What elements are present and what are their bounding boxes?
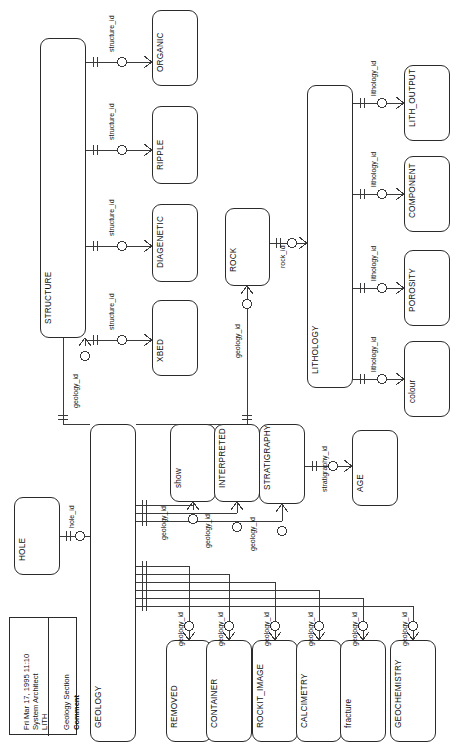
entity-lith-output[interactable]: LITH_OUTPUT xyxy=(404,65,450,141)
entity-label: ROCKIT_IMAGE xyxy=(256,664,265,728)
entity-label: COMPONENT xyxy=(408,163,417,218)
entity-label: POROSITY xyxy=(408,268,417,312)
entity-label: LITH_OUTPUT xyxy=(408,69,417,127)
title-block-date: Fri Mar 17, 1995 11:10 xyxy=(22,654,31,730)
entity-geology[interactable]: GEOLOGY xyxy=(90,424,136,742)
entity-label: INTERPRETED xyxy=(218,428,227,488)
rel-label-lithology-lith-output: lithology_id xyxy=(370,61,377,96)
entity-label: RIPPLE xyxy=(156,140,165,170)
entity-label: GEOCHEMISTRY xyxy=(394,659,403,728)
entity-calcimetry[interactable]: CALCIMETRY xyxy=(296,640,342,742)
title-block-comment-label: Comment xyxy=(72,695,81,730)
rel-label-geology-geochemistry: geology_id xyxy=(401,612,408,646)
entity-rockit-image[interactable]: ROCKIT_IMAGE xyxy=(252,640,298,742)
entity-geochemistry[interactable]: GEOCHEMISTRY xyxy=(390,640,436,742)
entity-stratigraphy[interactable]: STRATIGRAPHY xyxy=(259,424,305,504)
rel-label-stratigraphy-age: stratigraphy_id xyxy=(321,446,328,492)
entity-label: ORGANIC xyxy=(156,32,165,72)
rel-label-structure-diagenetic: structure_id xyxy=(108,199,115,236)
title-block-comment-value: Geology Section xyxy=(62,674,71,730)
entity-label: GEOLOGY xyxy=(94,686,103,728)
entity-hole[interactable]: HOLE xyxy=(14,497,60,575)
entity-lithology[interactable]: LITHOLOGY xyxy=(307,85,353,388)
rel-label-geology-show: geology_id xyxy=(160,506,167,540)
entity-label: show xyxy=(174,468,183,488)
entity-show[interactable]: show xyxy=(170,424,216,502)
title-block-tool: System Architect xyxy=(31,673,40,730)
rel-label-rock-lithology: rock_id xyxy=(279,245,286,268)
entity-colour[interactable]: colour xyxy=(404,341,450,417)
rel-label-lithology-component: lithology_id xyxy=(370,152,377,187)
entity-container[interactable]: CONTAINER xyxy=(206,640,252,742)
entity-interpreted[interactable]: INTERPRETED xyxy=(214,424,260,502)
entity-label: DIAGENETIC xyxy=(156,216,165,268)
title-block-model: LITH xyxy=(40,714,49,730)
rel-label-geology-removed: geology_id xyxy=(177,612,184,646)
rel-label-hole-geology: hole_id xyxy=(68,505,75,528)
entity-label: XBED xyxy=(156,339,165,362)
entity-label: CALCIMETRY xyxy=(300,673,309,728)
entity-diagenetic[interactable]: DIAGENETIC xyxy=(152,204,198,282)
entity-label: REMOVED xyxy=(170,685,179,728)
entity-age[interactable]: AGE xyxy=(352,430,398,506)
rel-label-geology-container: geology_id xyxy=(217,612,224,646)
entity-structure[interactable]: STRUCTURE xyxy=(40,38,86,338)
entity-label: STRUCTURE xyxy=(44,272,53,324)
entity-label: AGE xyxy=(356,474,365,492)
entity-organic[interactable]: ORGANIC xyxy=(152,10,198,86)
er-diagram-canvas: ORGANIC RIPPLE DIAGENETIC XBED STRUCTURE… xyxy=(0,0,454,749)
rel-label-lithology-colour: lithology_id xyxy=(370,337,377,372)
rel-label-geology-stratigraphy: geology_id xyxy=(249,517,256,551)
rel-label-geology-calcimetry: geology_id xyxy=(307,612,314,646)
rel-label-geology-interpreted: geology_id xyxy=(204,514,211,548)
rel-label-structure-xbed: structure_id xyxy=(108,293,115,330)
title-block: LITH System Architect Fri Mar 17, 1995 1… xyxy=(9,617,77,735)
rel-label-structure-ripple: structure_id xyxy=(108,103,115,140)
entity-label: fracture xyxy=(344,699,353,728)
entity-ripple[interactable]: RIPPLE xyxy=(152,106,198,184)
entity-component[interactable]: COMPONENT xyxy=(404,156,450,232)
entity-label: colour xyxy=(408,380,417,404)
entity-xbed[interactable]: XBED xyxy=(152,300,198,376)
rel-label-structure-organic: structure_id xyxy=(108,15,115,52)
entity-label: ROCK xyxy=(229,248,238,272)
rel-label-lithology-porosity: lithology_id xyxy=(370,246,377,281)
entity-porosity[interactable]: POROSITY xyxy=(404,250,450,326)
entity-label: LITHOLOGY xyxy=(311,325,320,374)
rel-label-geology-rock: geology_id xyxy=(234,324,241,358)
entity-label: STRATIGRAPHY xyxy=(263,425,272,490)
entity-label: HOLE xyxy=(18,538,27,561)
entity-label: CONTAINER xyxy=(210,679,219,728)
rel-label-geology-rockit-image: geology_id xyxy=(263,612,270,646)
entity-fracture[interactable]: fracture xyxy=(340,640,386,742)
rel-label-geology-structure: geology_id xyxy=(72,374,79,408)
entity-rock[interactable]: ROCK xyxy=(225,208,270,286)
rel-label-geology-fracture: geology_id xyxy=(351,612,358,646)
